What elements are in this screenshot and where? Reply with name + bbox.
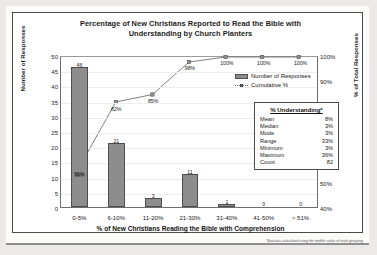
bar-value-label: 11 — [182, 169, 199, 175]
legend-item-bar: Number of Responses — [235, 72, 311, 80]
cumulative-value-label: 100% — [253, 60, 275, 66]
line-marker-icon — [235, 83, 248, 88]
y-tick-left: 20 — [40, 145, 58, 151]
statistics-row: Range33% — [260, 138, 333, 145]
y-tick-left: 45 — [40, 69, 58, 75]
statistics-row-key: Median — [260, 123, 278, 130]
statistics-box: % Understanding* Mean8%Median3%Mode3%Ran… — [254, 102, 339, 170]
y-tick-left: 30 — [40, 115, 58, 121]
y-tick-left: 35 — [40, 100, 58, 106]
chart-title: Percentage of New Christians Reported to… — [53, 19, 328, 38]
statistics-row: Minimum3% — [260, 145, 333, 152]
y-tick-left: 40 — [40, 84, 58, 90]
x-tick-label: 6-10% — [98, 214, 135, 221]
cumulative-point-marker — [151, 93, 154, 96]
y-tick-left: 15 — [40, 160, 58, 166]
bar — [71, 67, 88, 207]
legend-label-line: Cumulative % — [251, 82, 288, 88]
statistics-row-value: 36% — [322, 152, 333, 159]
statistics-row-value: 33% — [322, 138, 333, 145]
page-bottom-rule — [6, 243, 369, 245]
cumulative-value-label: 56% — [68, 171, 90, 177]
x-tick-label: 31-40% — [208, 214, 245, 221]
bar-value-label: 3 — [145, 193, 162, 199]
bar-value-label: 1 — [218, 199, 235, 205]
statistics-row-value: 8% — [325, 116, 333, 123]
cumulative-point-marker — [260, 55, 263, 58]
statistics-box-title: % Understanding* — [260, 106, 333, 113]
y-tick-right: 50% — [320, 181, 342, 187]
statistics-row-key: Maximum — [260, 152, 284, 159]
y-tick-right: 40% — [320, 206, 342, 212]
statistics-row-key: Mean — [260, 116, 274, 123]
y-tick-left: 10 — [40, 176, 58, 182]
y-tick-left: 25 — [40, 130, 58, 136]
statistics-row: Median3% — [260, 123, 333, 130]
x-tick-label: 11-20% — [135, 214, 172, 221]
bar-value-label: 21 — [108, 138, 125, 144]
bar — [182, 174, 199, 207]
bar-swatch-icon — [235, 74, 248, 79]
cumulative-value-label: 100% — [290, 60, 312, 66]
x-tick-label: > 51% — [282, 214, 319, 221]
statistics-rows: Mean8%Median3%Mode3%Range33%Minimum3%Max… — [260, 116, 333, 166]
y-axis-label-left: Number of Responses — [19, 19, 26, 99]
cumulative-value-label: 85% — [142, 98, 164, 104]
y-tick-left: 0 — [40, 206, 58, 212]
bar-value-label: 0 — [255, 201, 272, 207]
cumulative-value-label: 98% — [179, 65, 201, 71]
chart-screenshot: Percentage of New Christians Reported to… — [0, 0, 377, 255]
statistics-row-value: 3% — [325, 145, 333, 152]
chart-title-line-1: Percentage of New Christians Reported to… — [53, 19, 328, 29]
cumulative-point-marker — [297, 55, 300, 58]
cumulative-point-marker — [187, 60, 190, 63]
x-tick-label: 21-30% — [172, 214, 209, 221]
chart-frame: Percentage of New Christians Reported to… — [12, 12, 363, 233]
y-axis-label-right: % of Total Responses — [352, 22, 359, 108]
statistics-row: Mode3% — [260, 130, 333, 137]
statistics-row: Count82 — [260, 159, 333, 166]
bar-value-label: 0 — [292, 201, 309, 207]
statistics-row-value: 3% — [325, 123, 333, 130]
cumulative-point-marker — [224, 55, 227, 58]
y-tick-right: 90% — [320, 79, 342, 85]
x-axis-label: % of New Christians Reading the Bible wi… — [53, 225, 328, 232]
bar — [145, 198, 162, 207]
chart-legend: Number of Responses Cumulative % — [235, 72, 311, 90]
y-tick-right: 100% — [320, 54, 342, 60]
statistics-row-key: Count — [260, 159, 275, 166]
x-tick-label: 41-50% — [245, 214, 282, 221]
legend-item-line: Cumulative % — [235, 81, 311, 89]
statistics-row: Mean8% — [260, 116, 333, 123]
statistics-row: Maximum36% — [260, 152, 333, 159]
y-tick-left: 50 — [40, 54, 58, 60]
statistics-row-key: Minimum — [260, 145, 283, 152]
statistics-row-key: Range — [260, 138, 276, 145]
legend-label-bar: Number of Responses — [251, 73, 311, 79]
x-tick-label: 0-5% — [61, 214, 98, 221]
bar — [108, 143, 125, 207]
cumulative-value-label: 100% — [216, 60, 238, 66]
cumulative-value-label: 82% — [105, 106, 127, 112]
statistics-row-value: 82 — [327, 159, 333, 166]
statistics-row-value: 3% — [325, 130, 333, 137]
chart-title-line-2: Understanding by Church Planters — [53, 29, 328, 39]
y-tick-left: 5 — [40, 191, 58, 197]
statistics-row-key: Mode — [260, 130, 274, 137]
bar-value-label: 46 — [71, 62, 88, 68]
